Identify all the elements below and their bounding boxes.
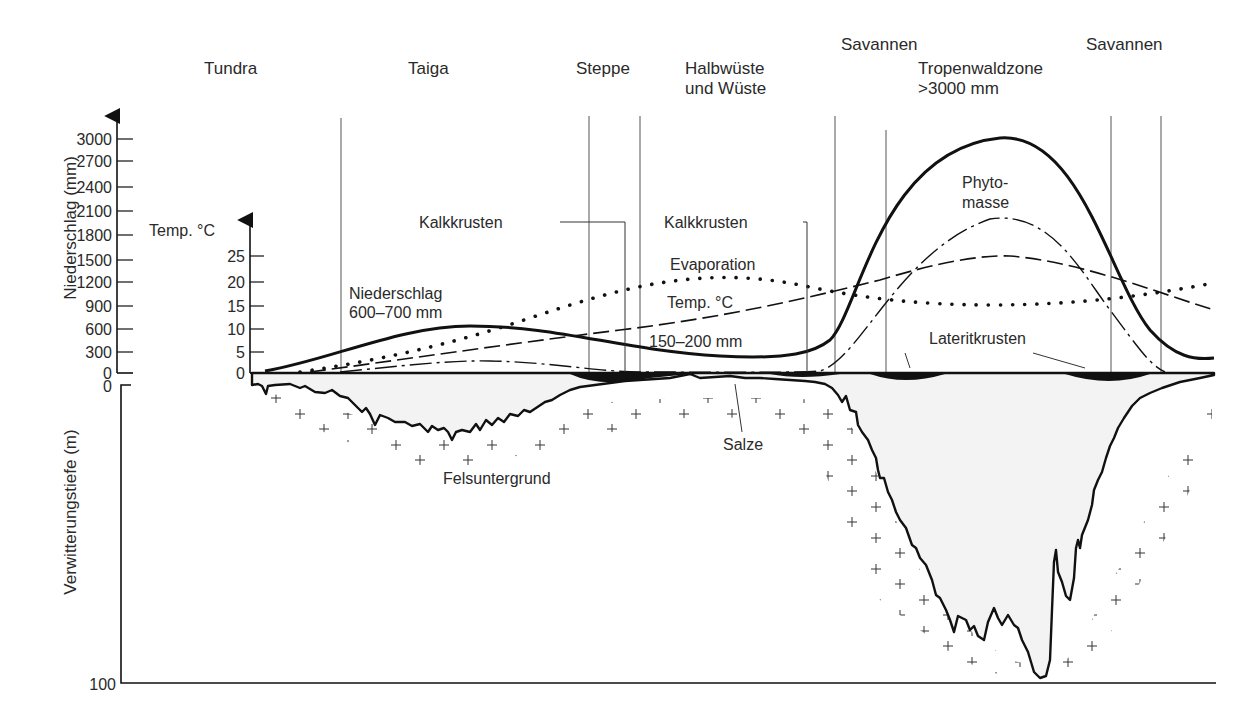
zone-label-savannen-right: Savannen [1086,35,1163,54]
tick-1800: 1800 [76,227,112,244]
label-dry-precip: 150–200 mm [649,333,742,350]
zone-label-taiga: Taiga [408,59,449,78]
label-lateritkrusten: Lateritkrusten [929,330,1026,347]
weathering-profile-diagram: 3000 2700 2400 2100 1800 1500 1200 900 6… [0,0,1245,714]
temp-tick-20: 20 [227,274,245,291]
label-salze: Salze [723,436,763,453]
precipitation-axis [117,116,133,373]
label-phytomasse-2: masse [962,194,1009,211]
label-phytomasse-1: Phyto- [962,174,1008,191]
label-kalkkrusten-1: Kalkkrusten [419,214,503,231]
zone-label-tundra: Tundra [204,59,258,78]
tick-900: 900 [85,298,112,315]
tick-1500: 1500 [76,252,112,269]
label-niederschlag-2: 600–700 mm [349,304,442,321]
depth-tick-100: 100 [89,676,116,693]
temp-tick-0: 0 [236,365,245,382]
zone-label-halbwueste-1: Halbwüste [685,59,764,78]
label-kalkkrusten-2: Kalkkrusten [664,214,748,231]
tick-1200: 1200 [76,274,112,291]
temp-tick-15: 15 [227,298,245,315]
zone-labels: Tundra Taiga Steppe Halbwüste und Wüste … [204,35,1163,98]
temp-tick-5: 5 [236,344,245,361]
tick-3000: 3000 [76,131,112,148]
temperature-axis-label: Temp. °C [149,222,215,239]
temp-tick-10: 10 [227,321,245,338]
zone-label-halbwueste-2: und Wüste [685,79,766,98]
zone-label-tropenwald-1: Tropenwaldzone [918,59,1043,78]
tick-300: 300 [85,344,112,361]
weathering-mantle [252,373,1214,678]
label-felsuntergrund: Felsuntergrund [443,470,551,487]
precipitation-ticks [117,139,133,352]
zone-label-savannen-left: Savannen [841,35,918,54]
zone-label-steppe: Steppe [576,59,630,78]
temperature-ticks [250,256,264,352]
depth-tick-0: 0 [103,378,112,395]
tick-600: 600 [85,321,112,338]
phytomass-curve [340,218,1165,372]
zone-label-tropenwald-2: >3000 mm [918,79,999,98]
precipitation-tick-labels: 3000 2700 2400 2100 1800 1500 1200 900 6… [76,131,112,382]
temperature-curve [310,256,1214,372]
tick-2700: 2700 [76,153,112,170]
depth-axis-label: Verwitterungstiefe (m) [61,429,80,594]
zone-boundaries [341,116,1161,373]
temperature-tick-labels: 25 20 15 10 5 0 [227,248,245,382]
label-evaporation: Evaporation [670,256,755,273]
tick-2100: 2100 [76,203,112,220]
label-niederschlag-1: Niederschlag [349,285,442,302]
temp-tick-25: 25 [227,248,245,265]
label-temp-curve: Temp. °C [667,294,733,311]
tick-2400: 2400 [76,179,112,196]
precipitation-axis-label: Niederschlag (mm) [61,156,80,300]
